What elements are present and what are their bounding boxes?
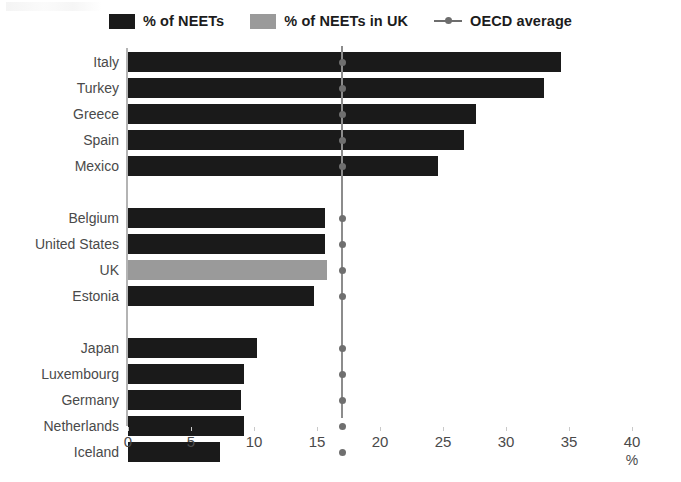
legend-item-neets-uk: % of NEETs in UK <box>250 13 408 29</box>
x-tick-label-0: 0 <box>124 433 132 450</box>
x-axis: 0510152025303540 <box>128 427 632 430</box>
bar-uk <box>128 260 327 280</box>
plot-area <box>128 52 632 426</box>
bar-japan <box>128 338 257 358</box>
bar-luxembourg <box>128 364 244 384</box>
category-label-germany: Germany <box>0 390 119 410</box>
x-tick-label-30: 30 <box>498 433 515 450</box>
x-tick <box>569 427 570 431</box>
x-tick-label-20: 20 <box>372 433 389 450</box>
x-tick <box>254 427 255 431</box>
x-tick <box>443 427 444 431</box>
oecd-average-dot <box>339 137 346 144</box>
oecd-average-dot <box>339 371 346 378</box>
x-tick-label-15: 15 <box>309 433 326 450</box>
legend-item-neets: % of NEETs <box>109 13 224 29</box>
category-label-spain: Spain <box>0 130 119 150</box>
category-label-iceland: Iceland <box>0 442 119 462</box>
bar-belgium <box>128 208 325 228</box>
category-label-luxembourg: Luxembourg <box>0 364 119 384</box>
category-label-mexico: Mexico <box>0 156 119 176</box>
bar-greece <box>128 104 476 124</box>
category-label-netherlands: Netherlands <box>0 416 119 436</box>
bar-germany <box>128 390 241 410</box>
x-tick-label-25: 25 <box>435 433 452 450</box>
category-label-japan: Japan <box>0 338 119 358</box>
neet-bar-chart: % of NEETs % of NEETs in UK OECD average… <box>0 0 681 482</box>
oecd-average-dot <box>339 215 346 222</box>
x-tick <box>632 427 633 431</box>
x-axis-unit-label: % <box>626 452 638 468</box>
bar-spain <box>128 130 464 150</box>
bar-turkey <box>128 78 544 98</box>
x-tick-label-35: 35 <box>561 433 578 450</box>
legend-swatch-neets-uk <box>250 14 276 29</box>
legend-label-oecd-average: OECD average <box>470 13 572 29</box>
bar-mexico <box>128 156 438 176</box>
category-label-belgium: Belgium <box>0 208 119 228</box>
category-label-united-states: United States <box>0 234 119 254</box>
category-label-greece: Greece <box>0 104 119 124</box>
bar-iceland <box>128 442 220 462</box>
x-tick <box>128 427 129 431</box>
legend-item-oecd-average: OECD average <box>434 13 572 29</box>
legend-marker-oecd-average <box>434 14 462 28</box>
scan-artifact <box>6 2 102 11</box>
oecd-average-dot <box>339 111 346 118</box>
x-tick <box>317 427 318 431</box>
oecd-average-dot <box>339 397 346 404</box>
category-label-estonia: Estonia <box>0 286 119 306</box>
oecd-average-dot <box>339 449 346 456</box>
x-tick <box>380 427 381 431</box>
category-label-turkey: Turkey <box>0 78 119 98</box>
bar-estonia <box>128 286 314 306</box>
oecd-average-dot <box>339 241 346 248</box>
x-tick-label-10: 10 <box>246 433 263 450</box>
x-tick <box>506 427 507 431</box>
oecd-average-dot <box>339 85 346 92</box>
chart-legend: % of NEETs % of NEETs in UK OECD average <box>0 13 681 29</box>
x-tick <box>191 427 192 431</box>
oecd-average-vline <box>341 46 343 418</box>
legend-label-neets-uk: % of NEETs in UK <box>284 13 408 29</box>
legend-swatch-neets <box>109 14 135 29</box>
oecd-average-dot <box>339 267 346 274</box>
oecd-average-dot <box>339 345 346 352</box>
oecd-average-dot <box>339 293 346 300</box>
x-tick-label-40: 40 <box>624 433 641 450</box>
oecd-average-dot <box>339 59 346 66</box>
category-label-uk: UK <box>0 260 119 280</box>
legend-label-neets: % of NEETs <box>143 13 224 29</box>
category-label-italy: Italy <box>0 52 119 72</box>
oecd-average-dot <box>339 163 346 170</box>
x-tick-label-5: 5 <box>187 433 195 450</box>
bar-united-states <box>128 234 325 254</box>
